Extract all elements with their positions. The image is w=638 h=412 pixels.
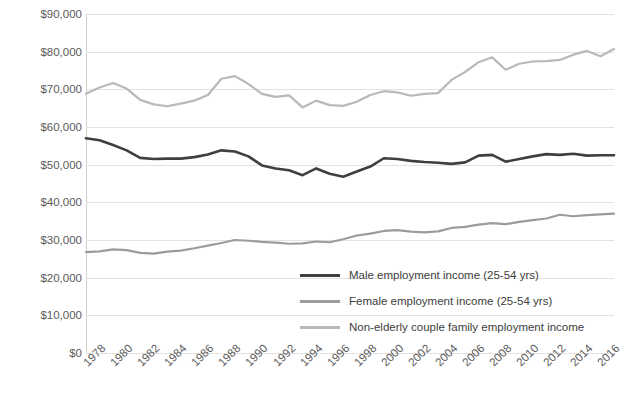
legend-item: Male employment income (25-54 yrs) [300, 262, 610, 288]
legend-item: Female employment income (25-54 yrs) [300, 288, 610, 314]
legend-swatch [300, 300, 340, 303]
series-line [86, 138, 614, 176]
legend-label: Non-elderly couple family employment inc… [349, 321, 584, 333]
y-axis-tick-label: $40,000 [2, 196, 82, 208]
y-axis-labels: $0$10,000$20,000$30,000$40,000$50,000$60… [0, 14, 82, 353]
legend-swatch [300, 274, 340, 277]
y-axis-tick-label: $20,000 [2, 272, 82, 284]
legend-label: Male employment income (25-54 yrs) [349, 269, 539, 281]
x-axis-labels: 1978198019821984198619881990199219941996… [86, 355, 614, 412]
y-axis-tick-label: $10,000 [2, 309, 82, 321]
y-axis-tick-label: $80,000 [2, 46, 82, 58]
y-axis-tick-label: $0 [2, 347, 82, 359]
chart-container: $0$10,000$20,000$30,000$40,000$50,000$60… [0, 0, 638, 412]
y-axis-tick-label: $30,000 [2, 234, 82, 246]
y-axis-tick-label: $90,000 [2, 8, 82, 20]
legend-label: Female employment income (25-54 yrs) [349, 295, 552, 307]
chart-legend: Male employment income (25-54 yrs)Female… [300, 262, 610, 340]
x-axis-tick-label: 1978 [81, 342, 108, 369]
series-line [86, 214, 614, 254]
y-axis-tick-label: $50,000 [2, 159, 82, 171]
series-line [86, 49, 614, 107]
y-axis-tick-label: $70,000 [2, 83, 82, 95]
legend-item: Non-elderly couple family employment inc… [300, 314, 610, 340]
legend-swatch [300, 326, 340, 329]
y-axis-tick-label: $60,000 [2, 121, 82, 133]
